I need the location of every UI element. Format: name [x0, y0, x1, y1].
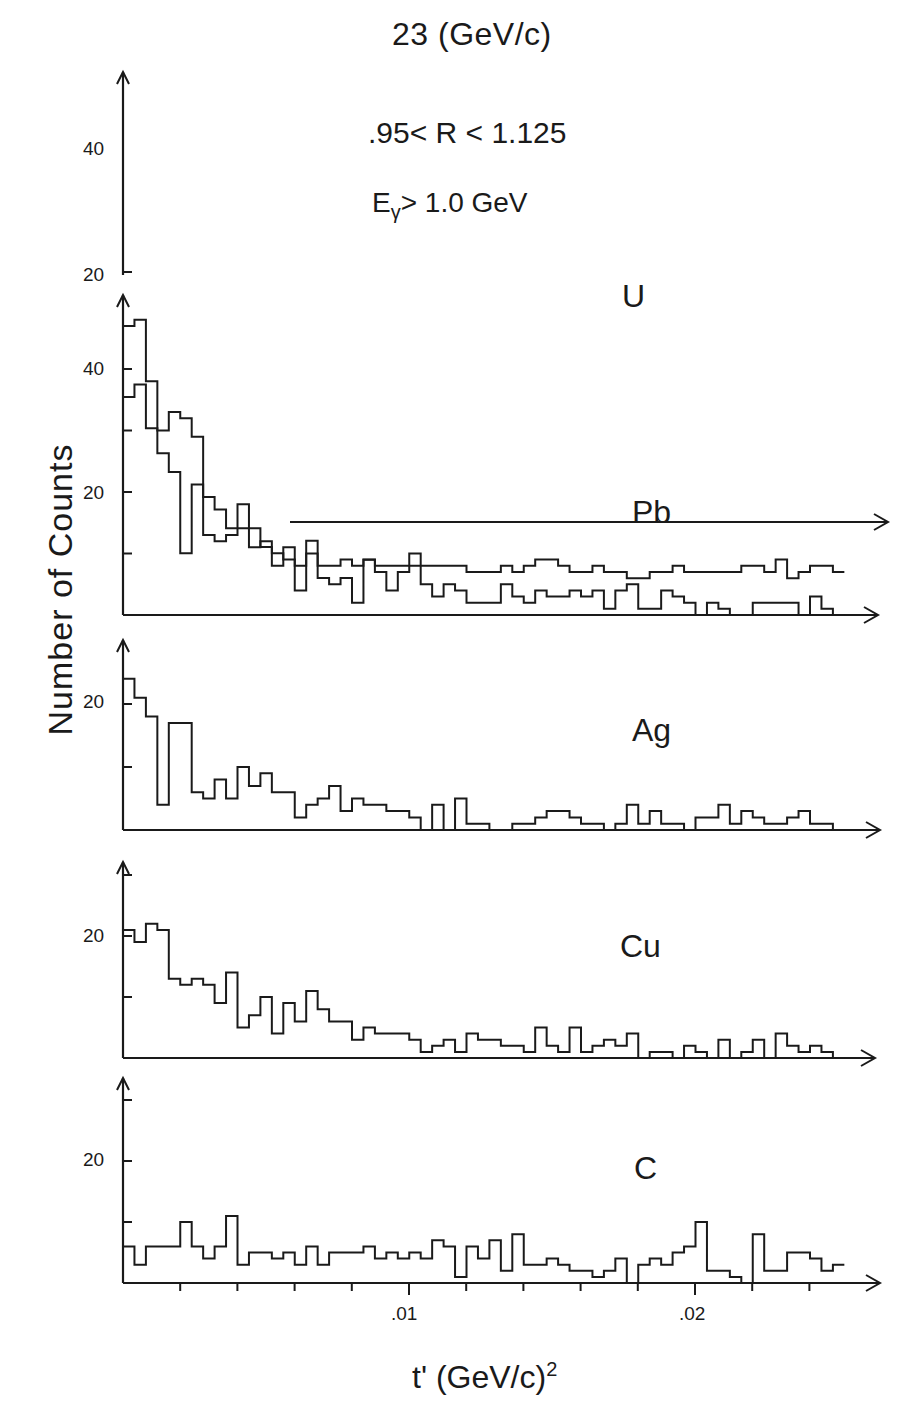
y-axis-label: Number of Counts — [41, 380, 80, 800]
histogram-steps-ag — [123, 679, 844, 830]
histogram-panel-c — [117, 1078, 880, 1291]
pb-ytick-20: 20 — [83, 482, 104, 504]
x-axis-ticks — [180, 1283, 809, 1295]
histogram-panel-cu — [117, 862, 875, 1066]
cu-ytick-20: 20 — [83, 925, 104, 947]
panel-label-c: C — [634, 1150, 657, 1187]
histogram-steps-c — [123, 1216, 844, 1283]
cut-energy-value: > 1.0 GeV — [401, 187, 528, 218]
panel-label-cu: Cu — [620, 928, 661, 965]
u-ytick-40: 40 — [83, 138, 104, 160]
x-tick-label-02: .02 — [679, 1303, 705, 1325]
panel-label-pb: Pb — [632, 494, 671, 531]
histogram-panel-pb — [117, 295, 878, 623]
cut-r-label: .95< R < 1.125 — [368, 116, 567, 150]
cut-energy-subscript: γ — [391, 201, 401, 223]
u-ytick-20: 20 — [83, 264, 104, 286]
x-tick-label-01: .01 — [391, 1303, 417, 1325]
x-axis-label: t' (GeV/c)2 — [412, 1358, 557, 1396]
x-axis-label-exponent: 2 — [546, 1358, 557, 1380]
ag-ytick-20: 20 — [83, 691, 104, 713]
panel-label-ag: Ag — [632, 712, 671, 749]
c-ytick-20: 20 — [83, 1149, 104, 1171]
histogram-steps-u — [123, 385, 844, 579]
cut-energy-symbol: E — [372, 187, 391, 218]
x-axis-label-main: t' (GeV/c) — [412, 1359, 546, 1395]
panel-label-u: U — [622, 278, 645, 315]
cut-energy-label: Eγ> 1.0 GeV — [372, 187, 528, 224]
histogram-steps-cu — [123, 924, 844, 1058]
histogram-panel-ag — [117, 640, 880, 838]
figure-title: 23 (GeV/c) — [392, 16, 552, 53]
histogram-steps-pb — [123, 320, 844, 615]
pb-ytick-40: 40 — [83, 358, 104, 380]
